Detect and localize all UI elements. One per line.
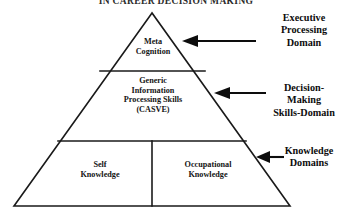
tier-label-occupational-knowledge: Occupational Knowledge xyxy=(156,160,260,179)
callout-knowledge-domains: Knowledge Domains xyxy=(268,145,350,170)
tier-label-self-knowledge: Self Knowledge xyxy=(52,160,148,179)
callout-executive-processing-domain: Executive Processing Domain xyxy=(258,12,350,49)
callout-decision-making-skills-domain: Decision- Making Skills-Domain xyxy=(258,82,350,119)
tier-label-casve: Generic Information Processing Skills (C… xyxy=(92,76,214,115)
figure-root: IN CAREER DECISION MAKING Meta Cogni xyxy=(0,0,352,221)
tier-label-metacognition: Meta Cognition xyxy=(107,37,199,56)
